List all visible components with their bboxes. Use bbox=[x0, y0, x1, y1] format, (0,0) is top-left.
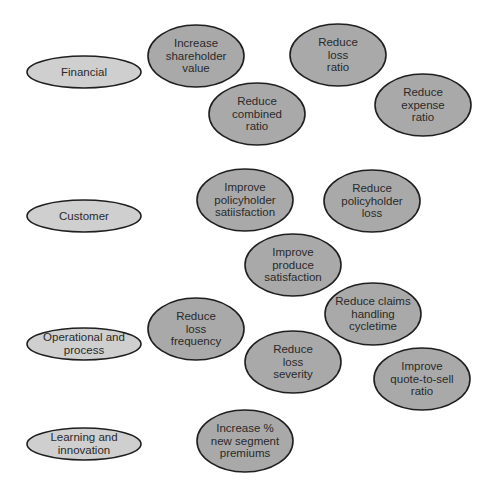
objective-label: Reduce expense ratio bbox=[401, 86, 444, 124]
objective-node-reduce-loss-severity: Reduce loss severity bbox=[245, 331, 341, 393]
objective-node-reduce-loss-frequency: Reduce loss frequency bbox=[148, 298, 244, 360]
objective-label: Increase % new segment premiums bbox=[211, 422, 279, 460]
objective-node-improve-policyholder-satisfaction: Improve policyholder satiisfaction bbox=[197, 169, 293, 231]
perspective-label: Customer bbox=[59, 210, 109, 223]
perspective-node-financial: Financial bbox=[27, 56, 141, 88]
objective-node-improve-quote-to-sell-ratio: Improve quote-to-sell ratio bbox=[374, 348, 470, 410]
objective-label: Reduce loss frequency bbox=[171, 310, 222, 348]
strategy-map-diagram: FinancialCustomerOperational and process… bbox=[0, 0, 494, 501]
objective-label: Reduce loss severity bbox=[273, 343, 313, 381]
perspective-node-operational: Operational and process bbox=[27, 328, 141, 360]
objective-node-reduce-loss-ratio: Reduce loss ratio bbox=[290, 24, 386, 86]
objective-label: Reduce claims handling cycletime bbox=[335, 295, 410, 333]
objective-label: Improve policyholder satiisfaction bbox=[214, 181, 275, 219]
objective-node-increase-shareholder-value: Increase shareholder value bbox=[148, 25, 244, 87]
objective-label: Increase shareholder value bbox=[166, 37, 227, 75]
objective-node-reduce-policyholder-loss: Reduce policyholder loss bbox=[324, 170, 420, 232]
objective-node-reduce-combined-ratio: Reduce combined ratio bbox=[209, 83, 305, 145]
objective-label: Reduce combined ratio bbox=[232, 95, 282, 133]
perspective-label: Learning and innovation bbox=[50, 431, 117, 457]
perspective-label: Financial bbox=[61, 66, 107, 79]
perspective-node-customer: Customer bbox=[27, 200, 141, 232]
objective-label: Reduce policyholder loss bbox=[341, 182, 402, 220]
perspective-label: Operational and process bbox=[43, 331, 125, 357]
perspective-node-learning: Learning and innovation bbox=[27, 428, 141, 460]
objective-label: Improve quote-to-sell ratio bbox=[390, 360, 453, 398]
objective-node-reduce-expense-ratio: Reduce expense ratio bbox=[375, 74, 471, 136]
objective-label: Improve produce satisfaction bbox=[264, 246, 322, 284]
objective-node-increase-new-segment-premiums: Increase % new segment premiums bbox=[197, 410, 293, 472]
objective-label: Reduce loss ratio bbox=[318, 36, 358, 74]
